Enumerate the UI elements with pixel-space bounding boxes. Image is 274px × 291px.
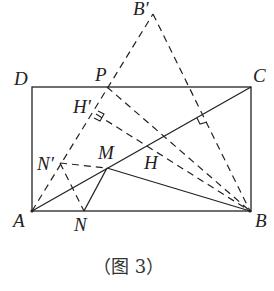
label-c: C <box>253 65 266 86</box>
label-n-prime: N′ <box>36 153 55 174</box>
right-angle-mark-ac <box>197 118 207 124</box>
label-h-prime: H′ <box>72 96 92 117</box>
figure-caption: （图 3） <box>93 256 164 277</box>
dashed-nprime-n <box>60 163 84 211</box>
label-n: N <box>73 214 88 235</box>
segment-ac <box>32 87 251 211</box>
label-h: H <box>143 152 159 173</box>
dashed-bprime-b <box>153 14 250 211</box>
label-p: P <box>94 64 107 85</box>
point-a <box>30 209 33 212</box>
dashed-hprime-b <box>96 114 250 211</box>
segment-mb <box>107 168 250 211</box>
label-d: D <box>13 68 28 89</box>
point-b <box>248 209 251 212</box>
label-b-prime: B′ <box>133 0 150 19</box>
label-m: M <box>97 142 115 163</box>
dashed-nprime-m <box>60 163 107 168</box>
geometry-figure: B′ D P C H′ M N′ H A N B （图 3） <box>0 0 274 291</box>
dashed-p-b <box>107 87 250 211</box>
label-b: B <box>255 210 267 231</box>
dashed-a-bprime <box>32 14 153 211</box>
label-a: A <box>11 210 25 231</box>
